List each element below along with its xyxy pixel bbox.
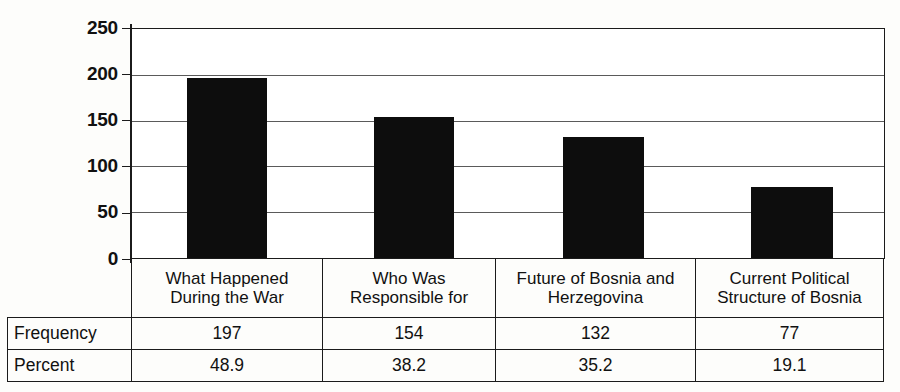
plot-area [131,28,885,259]
cell-percent-2: 38.2 [323,350,496,382]
data-table: What Happened During the War Who Was Res… [7,259,884,382]
category-header-2: Who Was Responsible for [323,259,496,318]
category-header-1-line2: During the War [170,288,284,307]
bar-who-was-responsible-for [374,117,454,258]
cell-frequency-4: 77 [696,318,884,350]
category-header-2-line2: Responsible for [350,288,468,307]
category-header-2-line1: Who Was [372,269,445,288]
category-header-4-line1: Current Political [730,269,850,288]
cell-frequency-2: 154 [323,318,496,350]
figure-bar-chart-with-data-table: 250 200 150 100 50 0 [0,0,900,392]
bar-future-of-bosnia-and-herzegovina [563,137,644,258]
row-header-frequency: Frequency [8,318,132,350]
category-header-4-line2: Structure of Bosnia [717,288,862,307]
cell-percent-3: 35.2 [496,350,696,382]
category-header-4: Current Political Structure of Bosnia [696,259,884,318]
bar-what-happened-during-the-war [187,78,267,258]
table-row-frequency: Frequency 197 154 132 77 [8,318,884,350]
cell-frequency-1: 197 [132,318,323,350]
category-header-3-line1: Future of Bosnia and [517,269,675,288]
row-header-percent: Percent [8,350,132,382]
cell-percent-1: 48.9 [132,350,323,382]
table-row-category-headers: What Happened During the War Who Was Res… [8,259,884,318]
category-header-3-line2: Herzegovina [548,288,643,307]
category-header-1: What Happened During the War [132,259,323,318]
y-tick-label-200: 200 [48,64,118,83]
table-corner-cell [8,259,132,318]
y-tick-label-100: 100 [48,156,118,175]
y-tick-label-250: 250 [48,18,118,37]
category-header-3: Future of Bosnia and Herzegovina [496,259,696,318]
cell-percent-4: 19.1 [696,350,884,382]
bar-current-political-structure-of-bosnia [751,187,833,258]
cell-frequency-3: 132 [496,318,696,350]
y-tick-label-150: 150 [48,110,118,129]
y-tick-label-50: 50 [48,202,118,221]
category-header-1-line1: What Happened [166,269,289,288]
table-row-percent: Percent 48.9 38.2 35.2 19.1 [8,350,884,382]
gridline-50 [132,75,884,76]
